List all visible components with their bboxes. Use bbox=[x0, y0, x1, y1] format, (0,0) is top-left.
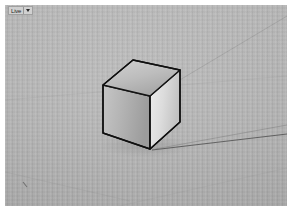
viewport-mode-label: Live bbox=[11, 8, 21, 14]
viewport-label-separator bbox=[23, 7, 24, 14]
application-window: Live bbox=[0, 0, 292, 212]
chevron-down-icon[interactable] bbox=[26, 9, 30, 12]
blue-axis-upper bbox=[173, 16, 287, 84]
ground-tick-mark bbox=[23, 182, 27, 187]
scene-canvas[interactable] bbox=[5, 4, 287, 207]
ground-guide-lower-right bbox=[115, 168, 287, 207]
viewport-mode-dropdown[interactable]: Live bbox=[8, 6, 33, 15]
ground-guide-lower-left bbox=[5, 172, 130, 201]
3d-modeling-viewport[interactable]: Live bbox=[5, 4, 287, 207]
